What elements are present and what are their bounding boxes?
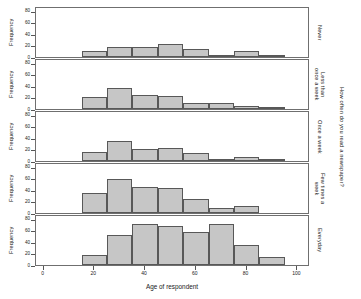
plot-area — [35, 163, 309, 214]
histogram-bar — [132, 95, 157, 109]
strip-label-less-than-once-a-week: Less than once a week — [312, 59, 328, 110]
y-axis-label: Frequency — [4, 7, 18, 58]
x-tick-label: 40 — [141, 271, 147, 276]
y-axis-label: Frequency — [4, 59, 18, 110]
histogram-bar — [82, 193, 107, 213]
panel-less-than-once-a-week: Frequency020406080Less than once a week — [0, 59, 361, 110]
histogram-bar — [234, 245, 259, 265]
histogram-bars — [36, 164, 308, 213]
histogram-bar — [107, 88, 132, 109]
y-tick-mark — [31, 46, 35, 47]
y-tick-mark — [31, 168, 35, 169]
y-tick-label: 80 — [25, 217, 30, 222]
y-tick-label-group: 020406080 — [17, 163, 30, 214]
y-tick-label: 20 — [25, 148, 30, 153]
x-tick-label: 100 — [292, 271, 300, 276]
y-tick-label: 0 — [27, 264, 30, 269]
y-tick-label: 20 — [25, 96, 30, 101]
panel-few-times-a-week: Frequency020406080Few times a week — [0, 163, 361, 214]
histogram-bar — [183, 199, 208, 213]
panel-everyday: Frequency020406080Everyday — [0, 215, 361, 266]
histogram-bar — [183, 153, 208, 161]
y-axis-label: Frequency — [4, 163, 18, 214]
y-tick-mark — [31, 179, 35, 180]
histogram-bar — [132, 224, 157, 265]
x-axis-label: Age of respondent — [35, 283, 309, 290]
y-tick-label: 40 — [25, 33, 30, 38]
y-tick-mark — [31, 266, 35, 267]
y-tick-label: 80 — [25, 165, 30, 170]
plot-area — [35, 59, 309, 110]
histogram-bar — [259, 257, 284, 265]
x-tick-label: 60 — [192, 271, 198, 276]
y-axis-label: Frequency — [4, 215, 18, 266]
y-tick-label: 60 — [25, 21, 30, 26]
histogram-bar — [209, 208, 234, 213]
y-tick-mark — [31, 98, 35, 99]
histogram-bars — [36, 60, 308, 109]
y-tick-mark — [31, 116, 35, 117]
histogram-bars — [36, 112, 308, 161]
plot-area — [35, 111, 309, 162]
y-tick-mark — [31, 64, 35, 65]
y-tick-mark — [31, 243, 35, 244]
strip-label-once-a-week: Once a week — [312, 111, 328, 162]
plot-area — [35, 7, 309, 58]
histogram-bar — [234, 206, 259, 213]
y-tick-label: 60 — [25, 73, 30, 78]
y-tick-label: 80 — [25, 61, 30, 66]
strip-label-never: Never — [312, 7, 328, 58]
y-tick-label: 80 — [25, 9, 30, 14]
y-tick-label: 40 — [25, 85, 30, 90]
histogram-bar — [107, 47, 132, 57]
y-tick-mark — [31, 150, 35, 151]
histogram-bar — [107, 141, 132, 161]
histogram-bar — [158, 148, 183, 161]
y-tick-mark — [31, 23, 35, 24]
histogram-bar — [82, 152, 107, 161]
y-tick-label-group: 020406080 — [17, 111, 30, 162]
y-tick-label: 80 — [25, 113, 30, 118]
y-tick-mark — [31, 254, 35, 255]
y-tick-mark — [31, 12, 35, 13]
histogram-bar — [259, 159, 284, 161]
y-tick-mark — [31, 191, 35, 192]
y-tick-label-group: 020406080 — [17, 7, 30, 58]
y-tick-label: 20 — [25, 252, 30, 257]
histogram-bar — [234, 51, 259, 57]
histogram-bar — [132, 47, 157, 57]
y-tick-mark — [31, 202, 35, 203]
y-tick-label: 60 — [25, 125, 30, 130]
histogram-bar — [107, 235, 132, 265]
y-tick-label: 40 — [25, 189, 30, 194]
histogram-bars — [36, 8, 308, 57]
y-tick-mark — [31, 231, 35, 232]
strip-label-few-times-a-week: Few times a week — [312, 163, 328, 214]
panel-never: Frequency020406080Never — [0, 7, 361, 58]
histogram-bar — [209, 224, 234, 265]
strip-label-everyday: Everyday — [312, 215, 328, 266]
y-tick-mark — [31, 127, 35, 128]
y-tick-mark — [31, 35, 35, 36]
y-tick-mark — [31, 75, 35, 76]
x-tick-label: 80 — [243, 271, 249, 276]
histogram-bar — [183, 49, 208, 57]
histogram-bar — [209, 55, 234, 57]
histogram-bar — [158, 44, 183, 57]
y-tick-label-group: 020406080 — [17, 215, 30, 266]
y-axis-label: Frequency — [4, 111, 18, 162]
outer-strip-label: How often do you read a newspaper? — [332, 7, 352, 266]
histogram-bar — [183, 103, 208, 109]
histogram-bar — [234, 106, 259, 109]
y-tick-mark — [31, 87, 35, 88]
histogram-bar — [82, 97, 107, 109]
histogram-bar — [107, 179, 132, 213]
plot-area — [35, 215, 309, 266]
histogram-bar — [158, 96, 183, 109]
y-tick-label: 20 — [25, 200, 30, 205]
histogram-bar — [158, 226, 183, 265]
trellis-histogram-chart: Frequency020406080NeverFrequency02040608… — [0, 0, 361, 299]
y-tick-label: 40 — [25, 241, 30, 246]
histogram-bar — [209, 103, 234, 109]
histogram-bar — [132, 149, 157, 161]
